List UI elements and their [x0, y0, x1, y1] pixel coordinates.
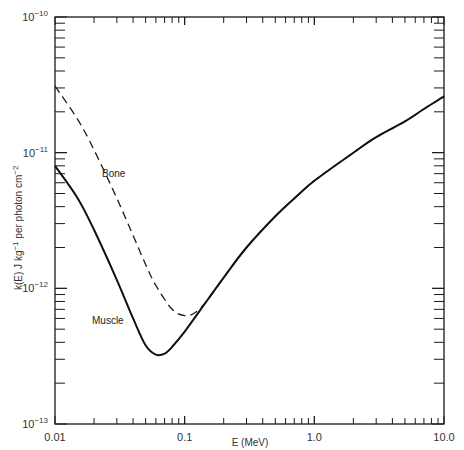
x-tick-label: 0.01 [44, 431, 65, 443]
bone-label: Bone [102, 168, 126, 179]
y-tick-label: 10−13 [22, 416, 48, 430]
y-tick-labels: 10−1010−1110−1210−13 [22, 9, 48, 430]
muscle-label: Muscle [92, 315, 124, 326]
axis-ticks [55, 17, 444, 424]
x-tick-label: 0.1 [177, 431, 192, 443]
y-axis-title-part: k(E) J kg [13, 251, 24, 290]
y-tick-label: 10−10 [22, 9, 48, 23]
x-tick-label: 10.0 [433, 431, 454, 443]
plot-frame [55, 17, 444, 424]
y-axis-title-exp: −2 [11, 165, 20, 175]
y-tick-label: 10−12 [22, 280, 48, 294]
y-axis-title-part: per photon cm [13, 175, 24, 242]
bone-curve [55, 86, 444, 316]
chart: 0.010.11.010.0 10−1010−1110−1210−13 Bone… [0, 0, 464, 450]
y-tick-label: 10−11 [23, 145, 49, 159]
x-tick-label: 1.0 [307, 431, 322, 443]
y-axis-title: k(E) J kg−1 per photon cm−2 [11, 165, 24, 290]
x-axis-title: E (MeV) [232, 437, 269, 448]
